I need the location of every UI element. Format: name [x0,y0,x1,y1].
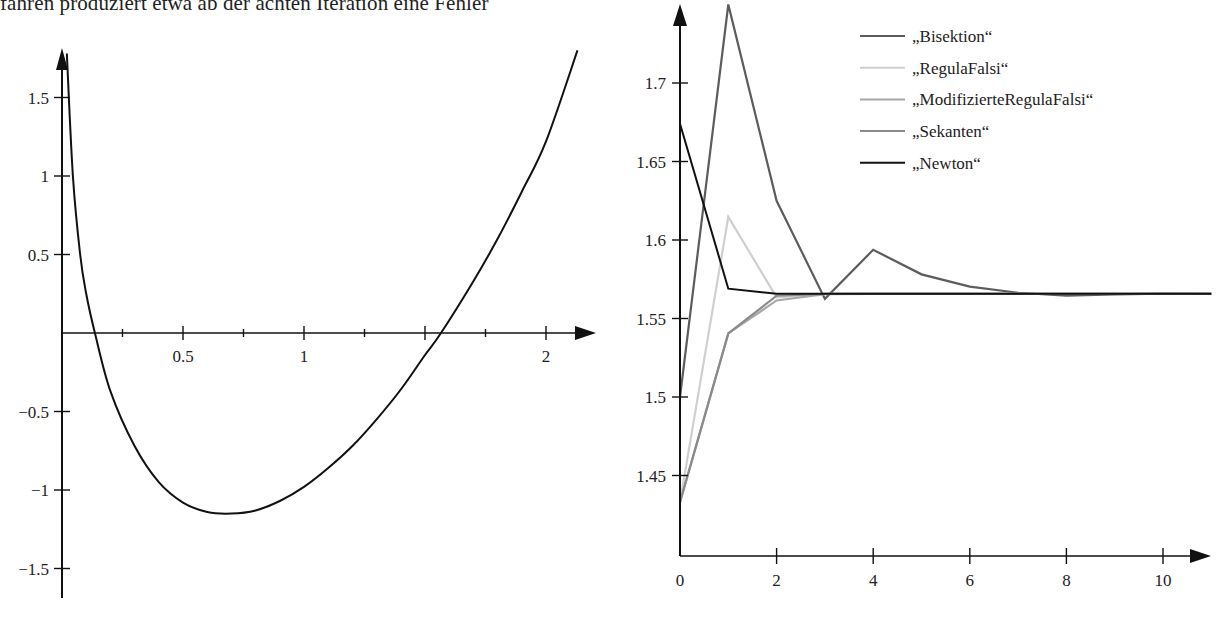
y-tick-label: 1.65 [636,153,666,172]
y-tick-label: 1.6 [645,231,666,250]
y-tick-label: 1.45 [636,467,666,486]
x-tick-label: 2 [542,347,551,366]
y-tick-label: −1.5 [18,560,49,579]
x-tick-label: 10 [1155,571,1172,590]
y-tick-label: 1.55 [636,310,666,329]
x-axis-arrow-icon [1190,549,1211,563]
y-tick-label: −1 [31,481,49,500]
x-tick-label: 1 [300,347,309,366]
x-tick-label: 2 [772,571,781,590]
legend: „Bisektion“„RegulaFalsi“„ModifizierteReg… [860,27,1093,173]
y-tick-label: 1.7 [645,74,667,93]
series-line-1 [680,217,1211,502]
x-tick-label: 0 [676,571,685,590]
series-line-2 [680,294,1211,502]
x-tick-label: 8 [1062,571,1071,590]
y-axis-arrow-icon [673,4,687,26]
y-tick-label: 1.5 [645,388,666,407]
legend-label: „Newton“ [912,154,981,173]
legend-label: „RegulaFalsi“ [912,59,1008,78]
legend-label: „Bisektion“ [912,27,992,46]
legend-label: „Sekanten“ [912,122,989,141]
x-tick-label: 4 [869,571,878,590]
series-line-4 [680,124,1211,294]
y-tick-label: 1.5 [28,89,49,108]
legend-label: „ModifizierteRegulaFalsi“ [912,90,1093,109]
series-line-0 [680,5,1211,398]
function-curve [67,50,578,513]
y-tick-label: 0.5 [28,246,49,265]
function-plot: 0.5121.510.5−0.5−1−1.5 [0,0,610,618]
x-tick-label: 6 [966,571,975,590]
y-tick-label: −0.5 [18,403,49,422]
x-axis-arrow-icon [575,326,596,340]
x-tick-label: 0.5 [172,347,193,366]
y-tick-label: 1 [41,167,50,186]
series-line-3 [680,294,1211,502]
